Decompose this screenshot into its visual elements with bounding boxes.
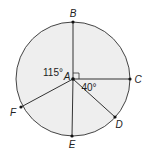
angle-label-115: 115°	[43, 67, 63, 78]
point-B	[71, 20, 74, 23]
point-A	[71, 77, 75, 81]
label-C: C	[134, 74, 142, 85]
label-A: A	[63, 71, 71, 82]
point-E	[70, 134, 73, 137]
point-F	[19, 105, 22, 108]
label-B: B	[70, 8, 77, 19]
label-F: F	[10, 107, 17, 118]
circle-diagram: A B C D E F 115° 40°	[0, 0, 146, 154]
label-E: E	[69, 139, 76, 150]
label-D: D	[115, 119, 122, 130]
angle-label-40: 40°	[81, 82, 96, 93]
point-C	[128, 77, 131, 80]
